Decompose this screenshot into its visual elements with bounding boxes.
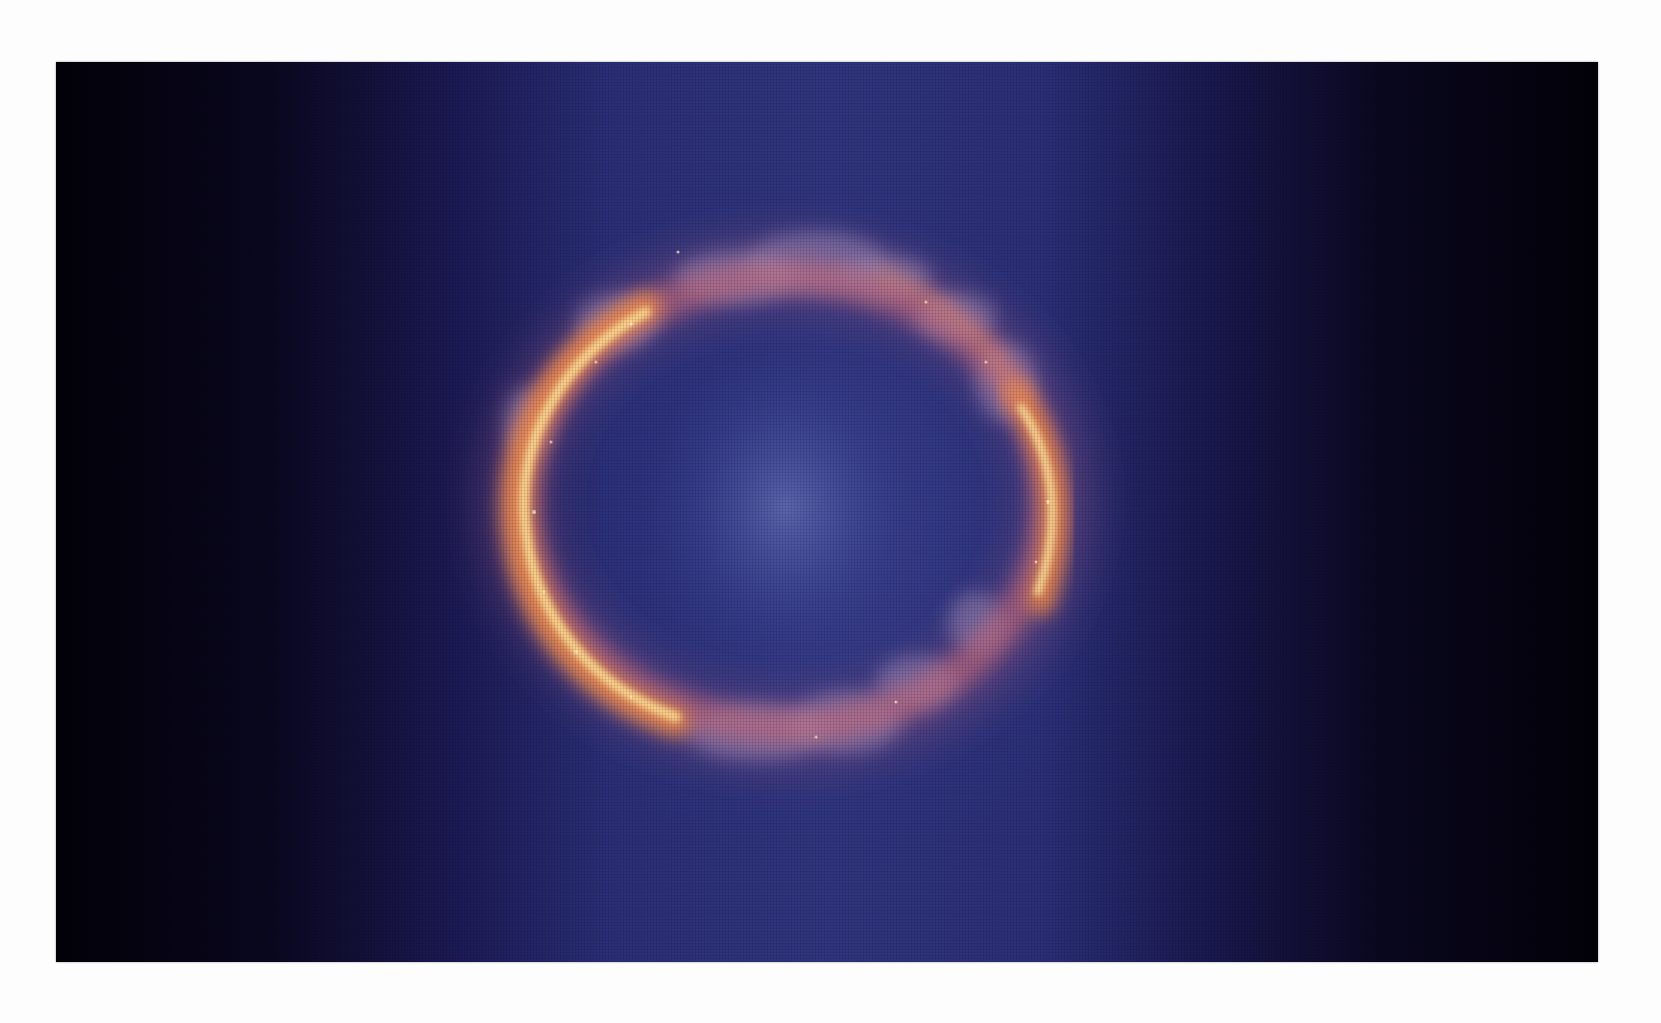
einstein-ring-photo <box>56 62 1598 962</box>
ring-graphic <box>56 62 1598 962</box>
page <box>0 0 1661 1023</box>
lens-galaxy-glow <box>636 337 936 677</box>
